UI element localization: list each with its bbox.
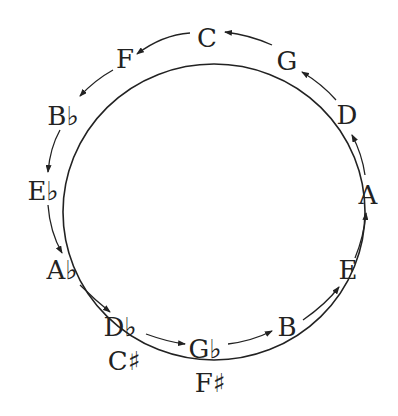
note-b: B: [277, 312, 296, 342]
note-ab: A♭: [45, 255, 77, 285]
arrow-eb-to-ab: [48, 205, 62, 253]
note-a: A: [358, 180, 379, 210]
note-d: D: [337, 100, 358, 130]
arrow-g-to-c: [225, 32, 272, 45]
arrow-db-to-gb: [146, 334, 185, 344]
note-c: C: [197, 23, 217, 53]
arrow-c-to-f: [137, 33, 190, 54]
circle-of-fifths-diagram: CGDAEBG♭D♭A♭E♭B♭F C♯F♯: [0, 0, 398, 416]
enharmonic-gb: F♯: [195, 368, 226, 398]
note-bb: B♭: [47, 101, 78, 131]
note-eb: E♭: [27, 176, 58, 206]
note-gb: G♭: [188, 334, 221, 364]
note-e: E: [339, 255, 358, 285]
arrow-ab-to-db: [80, 285, 110, 312]
arrow-gb-to-b: [228, 331, 272, 344]
arrow-f-to-bb: [80, 70, 113, 96]
enharmonic-db: C♯: [108, 346, 140, 376]
note-labels: CGDAEBG♭D♭A♭E♭B♭F: [27, 23, 378, 364]
arrows: [48, 32, 366, 344]
note-f: F: [116, 44, 134, 74]
note-db: D♭: [103, 312, 136, 342]
note-g: G: [277, 46, 298, 76]
arrow-bb-to-eb: [48, 130, 60, 172]
